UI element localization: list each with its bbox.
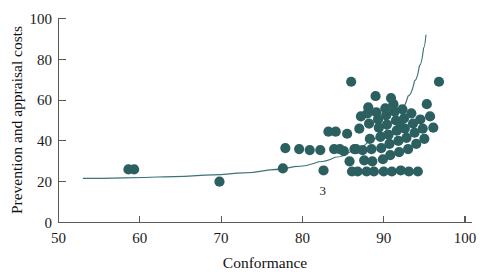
x-tick-label: 90	[376, 230, 391, 246]
data-point	[353, 166, 363, 176]
data-point	[305, 145, 315, 155]
data-point	[369, 166, 379, 176]
data-point	[382, 119, 392, 129]
data-point	[278, 163, 288, 173]
data-point	[415, 114, 425, 124]
data-point	[404, 166, 414, 176]
data-point	[394, 147, 404, 157]
data-point	[386, 93, 396, 103]
x-axis-title: Conformance	[223, 254, 307, 271]
data-point	[434, 77, 444, 87]
data-point	[419, 134, 429, 144]
data-point	[384, 139, 394, 149]
data-point	[422, 99, 432, 109]
data-point	[315, 145, 325, 155]
x-tick-label: 60	[132, 230, 147, 246]
x-tick-label: 100	[454, 230, 477, 246]
data-point	[129, 164, 139, 174]
data-point	[425, 111, 435, 121]
data-point	[395, 117, 405, 127]
y-tick-label: 100	[30, 11, 53, 27]
data-point	[364, 118, 374, 128]
x-tick-label: 70	[214, 230, 229, 246]
data-points	[123, 77, 444, 187]
data-point	[367, 156, 377, 166]
y-tick-label: 40	[37, 133, 52, 149]
data-point	[342, 129, 352, 139]
data-point	[418, 124, 428, 134]
y-tick-label: 0	[45, 215, 53, 231]
x-axis-ticks: 5060708090100	[51, 216, 476, 246]
y-tick-label: 80	[37, 52, 52, 68]
data-point	[428, 123, 438, 133]
data-point	[357, 145, 367, 155]
x-tick-label: 50	[51, 230, 66, 246]
annotations: 3	[319, 183, 326, 198]
plot-area: 020406080100 5060708090100 3 Prevention …	[0, 0, 484, 278]
data-point	[387, 166, 397, 176]
data-point	[406, 108, 416, 118]
data-point	[354, 124, 364, 134]
y-tick-label: 60	[37, 92, 52, 108]
data-point	[294, 144, 304, 154]
data-point	[385, 150, 395, 160]
scatter-chart: 020406080100 5060708090100 3 Prevention …	[0, 0, 484, 278]
data-point	[344, 156, 354, 166]
data-point	[397, 104, 407, 114]
y-axis-title: Prevention and appraisal costs	[8, 26, 25, 214]
data-point	[413, 166, 423, 176]
data-point	[214, 177, 224, 187]
data-point	[363, 102, 373, 112]
data-point	[280, 143, 290, 153]
data-point	[346, 77, 356, 87]
y-tick-label: 20	[37, 174, 52, 190]
data-point	[365, 134, 375, 144]
y-axis-ticks: 020406080100	[30, 11, 66, 231]
chart-annotation: 3	[319, 183, 326, 198]
x-tick-label: 80	[295, 230, 310, 246]
data-point	[339, 146, 349, 156]
data-point	[366, 144, 376, 154]
data-point	[331, 127, 341, 137]
data-point	[370, 91, 380, 101]
data-point	[318, 165, 328, 175]
